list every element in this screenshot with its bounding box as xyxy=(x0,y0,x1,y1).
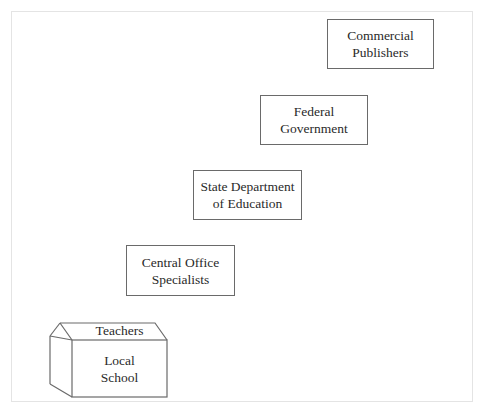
local-school-line-1: Local xyxy=(72,352,167,369)
local-school-line-2: School xyxy=(72,369,167,386)
local-school-label: Local School xyxy=(72,352,167,386)
commercial-publishers-line-1: Commercial xyxy=(347,27,414,44)
central-office-line-2: Specialists xyxy=(152,271,210,288)
state-department-box: State Department of Education xyxy=(193,170,302,220)
federal-government-line-2: Government xyxy=(280,120,347,137)
teachers-label: Teachers xyxy=(72,322,167,339)
state-department-line-2: of Education xyxy=(213,195,282,212)
commercial-publishers-line-2: Publishers xyxy=(352,44,408,61)
central-office-box: Central Office Specialists xyxy=(126,245,235,296)
central-office-line-1: Central Office xyxy=(142,254,219,271)
state-department-line-1: State Department xyxy=(200,178,294,195)
federal-government-box: Federal Government xyxy=(260,95,368,145)
commercial-publishers-box: Commercial Publishers xyxy=(327,19,434,69)
federal-government-line-1: Federal xyxy=(294,103,334,120)
